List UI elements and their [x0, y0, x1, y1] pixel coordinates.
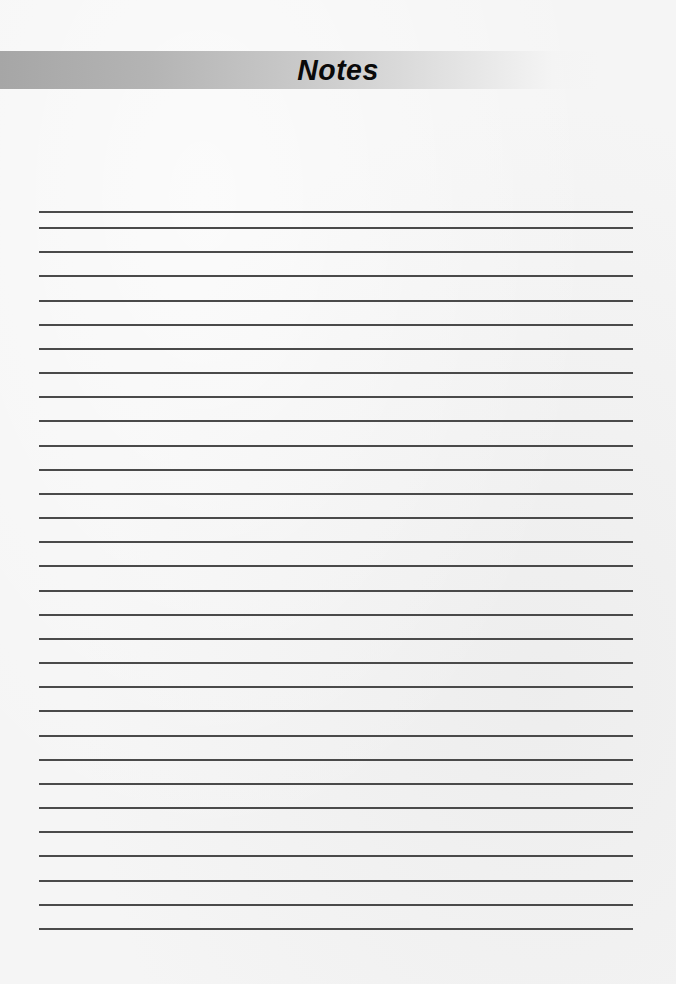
ruled-line: [39, 541, 633, 543]
ruled-line: [39, 686, 633, 688]
ruled-line: [39, 469, 633, 471]
ruled-line: [39, 710, 633, 712]
ruled-line: [39, 420, 633, 422]
ruled-line: [39, 324, 633, 326]
ruled-line: [39, 445, 633, 447]
ruled-line: [39, 372, 633, 374]
ruled-line: [39, 855, 633, 857]
ruled-line: [39, 831, 633, 833]
notes-page: Notes: [0, 0, 676, 984]
ruled-line: [39, 517, 633, 519]
ruled-line: [39, 614, 633, 616]
ruled-line: [39, 590, 633, 592]
ruled-line: [39, 493, 633, 495]
ruled-line: [39, 735, 633, 737]
ruled-line: [39, 759, 633, 761]
ruled-line: [39, 396, 633, 398]
ruled-line: [39, 880, 633, 882]
ruled-line: [39, 348, 633, 350]
ruled-line: [39, 638, 633, 640]
ruled-line: [39, 275, 633, 277]
ruled-lines-area: [39, 0, 633, 984]
ruled-line: [39, 565, 633, 567]
ruled-line: [39, 783, 633, 785]
ruled-line: [39, 300, 633, 302]
ruled-line: [39, 211, 633, 213]
ruled-line: [39, 227, 633, 229]
ruled-line: [39, 251, 633, 253]
ruled-line: [39, 807, 633, 809]
ruled-line: [39, 662, 633, 664]
ruled-line: [39, 904, 633, 906]
ruled-line: [39, 928, 633, 930]
